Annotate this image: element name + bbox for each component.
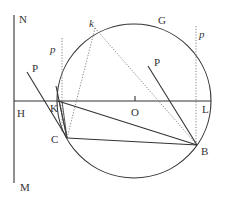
geometry-diagram: N M H O L G B C K k P P p p <box>0 0 225 201</box>
label-p-right-upper: P <box>154 56 160 68</box>
label-l: L <box>202 103 209 115</box>
label-k-upper: K <box>50 102 58 114</box>
label-p-left-upper: P <box>32 62 38 74</box>
dotted-line-kb <box>95 28 197 145</box>
line-p-left <box>27 72 67 138</box>
label-o: O <box>131 106 139 118</box>
label-k-lower: k <box>89 17 95 29</box>
label-m: M <box>20 181 30 193</box>
diagram-svg: N M H O L G B C K k P P p p <box>0 0 225 201</box>
label-b: B <box>201 145 208 157</box>
label-p-right-lower: p <box>198 28 205 40</box>
label-p-left-lower: p <box>49 43 56 55</box>
label-h: H <box>17 107 25 119</box>
label-g: G <box>158 14 166 26</box>
line-p-right <box>148 66 197 145</box>
label-n: N <box>19 13 27 25</box>
label-c: C <box>51 133 58 145</box>
